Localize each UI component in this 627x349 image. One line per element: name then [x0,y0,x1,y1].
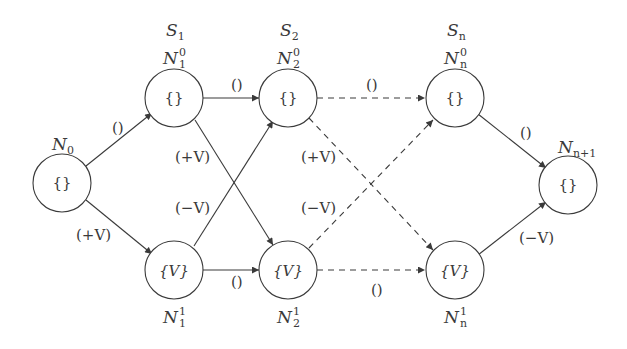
node-content-n1-0: {} [164,89,183,107]
edge-label-n0-n1-1: (+V) [76,226,111,244]
node-content-nn1: {} [558,176,577,194]
edge-label-n1-0-n2-0: () [231,76,243,94]
node-label-nn-1: N1n [443,305,467,330]
node-label-nn1: Nn+1 [557,137,596,160]
edge-label-n1-1-n2-0: (−V) [175,199,210,217]
edge-nn-0-nn1 [478,114,546,168]
node-content-n1-1: {V} [159,262,189,280]
node-label-n1-0: N01 [162,46,186,71]
edge-label-n2-1-nn-0: (−V) [301,199,336,217]
edge-label-n2-1-nn-1: () [371,281,383,299]
edge-label-n0-n1-0: () [112,119,124,137]
edge-label-n2-0-nn-0: () [366,76,378,94]
edge-label-n2-0-nn-1: (+V) [301,148,336,166]
stage-label-s2: S2 [280,20,299,43]
node-content-n2-1: {V} [273,262,303,280]
node-label-n0: N0 [51,134,74,157]
node-content-nn-1: {V} [440,262,470,280]
edge-label-nn-0-nn1: () [520,124,532,142]
node-label-n2-1: N12 [276,305,300,330]
node-label-n2-0: N02 [276,46,300,71]
state-transition-diagram: S1 S2 Sn () (+V) () (+V) (−V) () () (+V)… [0,0,627,349]
edge-label-n1-1-n2-1: () [231,273,243,291]
stage-label-s1: S1 [166,20,185,43]
edge-label-n1-0-n2-1: (+V) [175,148,210,166]
edge-label-nn-1-nn1: (−V) [519,229,554,247]
node-label-nn-0: N0n [443,46,467,71]
stage-label-sn: Sn [447,20,466,43]
edge-n1-1-n2-0 [194,121,273,246]
edge-n2-1-nn-0 [309,120,433,248]
node-content-n2-0: {} [278,89,297,107]
node-content-n0: {} [52,174,71,192]
node-label-n1-1: N11 [162,305,186,330]
node-content-nn-0: {} [445,89,464,107]
